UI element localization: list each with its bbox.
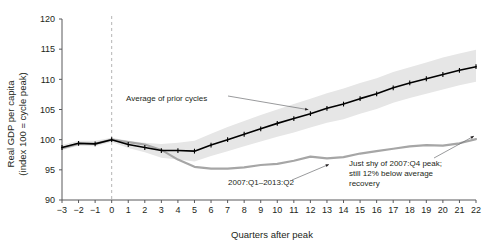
x-tick-label: 11: [289, 205, 298, 215]
x-tick-label: 7: [225, 205, 230, 215]
x-tick-label: 22: [471, 205, 481, 215]
x-tick-label: 12: [305, 205, 315, 215]
average-range-band: [62, 50, 476, 162]
y-axis-title-line2: (index 100 = cycle peak): [17, 72, 28, 175]
annotation-shortfall-line1: Just shy of 2007:Q4 peak;: [349, 159, 442, 168]
y-axis-title-line1: Real GDP per capita: [5, 80, 16, 168]
x-tick-label: 13: [322, 205, 332, 215]
x-tick-label: 16: [372, 205, 382, 215]
annotation-average-of-prior-cycles: Average of prior cycles: [126, 94, 308, 111]
x-tick-label: 8: [242, 205, 247, 215]
x-tick-label: −3: [57, 205, 67, 215]
x-tick-label: 14: [339, 205, 349, 215]
annotation-avg-leader-line: [228, 96, 308, 110]
x-axis-title: Quarters after peak: [231, 229, 313, 240]
x-tick-label: 2: [142, 205, 147, 215]
chart-figure: 9095100105110115120 −3−2−101234567891011…: [0, 0, 489, 248]
x-tick-label: −1: [90, 205, 100, 215]
x-tick-label: 18: [405, 205, 415, 215]
y-axis-tick-labels: 9095100105110115120: [40, 14, 55, 205]
y-tick-label: 90: [45, 195, 55, 205]
annotation-avg-label: Average of prior cycles: [126, 94, 207, 103]
x-tick-label: 20: [438, 205, 448, 215]
y-tick-label: 120: [40, 14, 55, 24]
x-tick-label: 21: [454, 205, 464, 215]
y-tick-label: 105: [40, 105, 55, 115]
y-tick-label: 110: [41, 75, 55, 85]
x-tick-label: 17: [388, 205, 398, 215]
gdp-recovery-line-chart: 9095100105110115120 −3−2−101234567891011…: [0, 0, 489, 248]
annotation-current-leader-line: [292, 164, 329, 180]
x-axis-tick-labels: −3−2−10123456789101112131415161718192021…: [57, 205, 481, 215]
x-tick-label: 9: [258, 205, 263, 215]
x-tick-label: 1: [126, 205, 131, 215]
annotation-shortfall-leader-line: [434, 136, 474, 158]
x-tick-label: 15: [355, 205, 365, 215]
x-tick-label: 4: [175, 205, 180, 215]
x-tick-label: 3: [159, 205, 164, 215]
y-tick-label: 100: [40, 135, 55, 145]
x-tick-label: 6: [209, 205, 214, 215]
annotation-current-label: 2007:Q1–2013:Q2: [228, 178, 294, 187]
x-tick-label: 0: [109, 205, 114, 215]
y-tick-label: 115: [41, 44, 55, 54]
y-tick-label: 95: [45, 165, 55, 175]
annotation-shortfall-line2: still 12% below average: [349, 169, 434, 178]
y-axis-title: Real GDP per capita (index 100 = cycle p…: [5, 72, 28, 175]
x-tick-label: −2: [73, 205, 83, 215]
annotation-shortfall-line3: recovery: [349, 179, 380, 188]
x-tick-label: 10: [272, 205, 282, 215]
x-tick-label: 19: [421, 205, 431, 215]
x-tick-label: 5: [192, 205, 197, 215]
